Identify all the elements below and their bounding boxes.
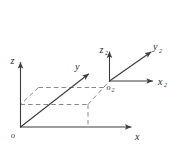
plane-edge-left (21, 88, 39, 105)
figure-canvas: z y x o z 2 y 2 x 2 o 2 (0, 0, 179, 155)
frame2-axes (110, 52, 153, 81)
axis-y2 (110, 52, 152, 81)
axis-y (21, 74, 89, 127)
origin-label-o: o (11, 131, 15, 140)
axis-label-x2: x (157, 76, 163, 87)
axis-label-x2-group: x 2 (157, 76, 167, 89)
axis-label-y2-group: y 2 (152, 41, 162, 54)
axis-label-z2: z (99, 44, 104, 55)
dashed-projection-plane (21, 88, 92, 105)
axis-label-y2: y (152, 41, 158, 52)
axis-label-x2-subscript: 2 (164, 82, 167, 88)
axis-label-z2-subscript: 2 (105, 50, 108, 56)
axis-label-x: x (134, 131, 140, 142)
axis-label-z2-group: z 2 (99, 44, 109, 57)
coordinate-diagram: z y x o z 2 y 2 x 2 o 2 (0, 0, 179, 155)
origin-label-o2-group: o 2 (107, 83, 115, 93)
axis-label-z: z (10, 55, 15, 66)
origin-label-o2-subscript: 2 (112, 87, 115, 93)
axis-label-y2-subscript: 2 (159, 48, 162, 54)
origin-label-o2: o (107, 83, 111, 92)
axis-label-y: y (74, 61, 80, 72)
frame1-axes (21, 63, 132, 128)
